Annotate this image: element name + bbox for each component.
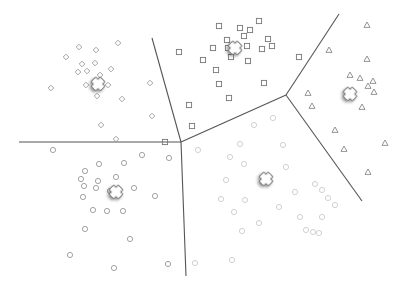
circle-point [280,142,285,147]
diamond-point [79,61,85,67]
circle-point [251,122,256,127]
boundary-line [286,14,339,95]
cluster-diamonds [48,40,155,142]
square-point [244,43,249,48]
circle-point [319,187,324,192]
diamond-point [108,66,114,72]
circle-point [93,185,98,190]
centroid-x-icon [257,170,275,188]
circle-point [120,208,125,213]
cluster-circles-left [50,147,171,270]
square-point [237,25,242,30]
circle-point [276,204,281,209]
cluster-squares [162,18,301,144]
diamond-point [75,69,81,75]
circle-point [195,147,200,152]
circle-point [319,214,324,219]
circle-point [166,155,171,160]
circle-point [90,207,95,212]
boundary-line [181,142,186,276]
square-point [241,33,246,38]
square-point [176,49,181,54]
triangle-point [359,104,365,109]
circle-point [312,181,317,186]
data-points [48,18,388,270]
square-point [259,46,264,51]
circle-point [127,236,132,241]
square-point [256,18,261,23]
circle-point [81,183,86,188]
triangle-point [309,103,315,108]
diamond-point [113,136,119,142]
circle-point [229,257,234,262]
square-point [224,37,229,42]
square-point [216,23,221,28]
diamond-point [149,113,155,119]
circle-point [242,197,247,202]
square-point [189,123,194,128]
circle-point [283,164,288,169]
circle-point [121,160,126,165]
triangle-point [370,78,376,83]
diamond-point [83,82,89,88]
triangle-point [347,72,353,77]
circle-point [113,174,118,179]
circle-point [332,202,337,207]
circle-point [95,178,100,183]
voronoi-cluster-diagram [0,0,405,291]
circle-point [165,261,170,266]
centroid-x-icon [107,183,125,201]
boundary-line [286,95,362,201]
square-point [296,54,301,59]
circle-point [292,189,297,194]
circle-point [80,194,85,199]
diamond-point [76,44,82,50]
square-point [213,67,218,72]
triangle-point [365,169,371,174]
circle-point [227,154,232,159]
circle-point [152,193,157,198]
diamond-point [92,60,98,66]
diamond-point [48,85,54,91]
square-point [245,58,250,63]
square-point [261,80,266,85]
circle-point [50,147,55,152]
square-point [200,57,205,62]
circle-point [192,260,197,265]
triangle-point [305,90,311,95]
circle-point [104,208,109,213]
circle-point [310,229,315,234]
circle-point [270,115,275,120]
diamond-point [63,54,69,60]
circle-point [237,141,242,146]
circle-point [256,220,261,225]
triangle-point [371,89,377,94]
voronoi-boundaries [19,14,362,276]
diamond-point [119,96,125,102]
diamond-point [84,68,90,74]
circle-point [316,230,321,235]
circle-point [218,196,223,201]
circle-point [139,152,144,157]
triangle-point [332,127,338,132]
circle-point [223,177,228,182]
diamond-point [115,40,121,46]
square-point [186,102,191,107]
circle-point [111,265,116,270]
triangle-point [326,47,332,52]
triangle-point [341,146,347,151]
square-point [247,27,252,32]
circle-point [325,195,330,200]
diamond-point [93,47,99,53]
square-point [226,95,231,100]
circle-point [303,227,308,232]
square-point [269,43,274,48]
triangle-point [382,140,388,145]
centroid-x-icon [341,85,359,103]
centroids [89,39,359,201]
square-point [265,36,270,41]
square-point [210,45,215,50]
circle-point [231,209,236,214]
triangle-point [357,75,363,80]
triangle-point [364,22,370,27]
